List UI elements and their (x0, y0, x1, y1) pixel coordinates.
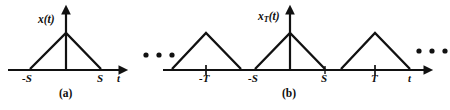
panel-b-triangle-waveform-minus-T (172, 33, 241, 69)
panel-b-tick-label-S: S (321, 73, 327, 84)
panel-b-ellipsis-left-icon (143, 52, 174, 57)
panel-a-tick-label-minus-S: -S (22, 73, 32, 84)
panel-a-plot (8, 11, 122, 70)
panel-b-axis-label-t: t (408, 74, 411, 85)
panel-b-triangle-waveform-plus-T (341, 33, 410, 69)
panel-b-tick-label-minus-S: -S (248, 73, 258, 84)
panel-a-signal-label: x(t) (38, 14, 55, 26)
panel-b-caption: (b) (282, 88, 296, 100)
panel-b-signal-label-tail: (t) (269, 10, 280, 22)
panel-a-axis-label-t: t (117, 74, 120, 85)
panel-b-ellipsis-right-icon (416, 48, 447, 53)
panel-b-tick-label-T: T (371, 73, 378, 84)
panel-b-plot (163, 11, 427, 75)
panel-b-tick-label-minus-T: -T (199, 73, 209, 84)
panel-a-tick-label-S: S (97, 73, 103, 84)
figure-container: x(t) -S S t (a) xT(t) -T -S S T t (b) (0, 0, 450, 110)
panel-b-signal-label: xT(t) (258, 11, 280, 24)
panel-a-caption: (a) (59, 88, 72, 100)
